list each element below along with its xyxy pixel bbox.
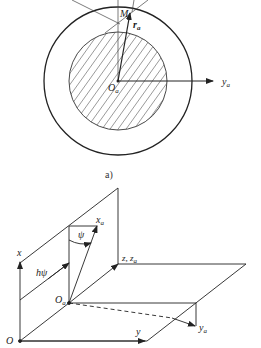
label-y-a: ya bbox=[221, 76, 230, 89]
diagram-canvas: M ra Oa ya a) bbox=[0, 0, 261, 348]
figure-b-labels: x xa ψ hψ z, za Oa O y ya bbox=[6, 214, 207, 346]
label-psi: ψ bbox=[78, 229, 85, 240]
figure-a: M ra Oa ya a) bbox=[0, 0, 230, 181]
h-psi-arrow bbox=[48, 263, 69, 279]
label-origin-a-b: Oa bbox=[55, 294, 66, 307]
oa-to-o-edge bbox=[20, 303, 69, 341]
label-m: M bbox=[119, 8, 129, 19]
label-x: x bbox=[16, 247, 22, 258]
label-origin-a: Oa bbox=[108, 82, 119, 95]
label-origin: O bbox=[6, 335, 13, 346]
figure-b bbox=[19, 188, 247, 343]
label-y: y bbox=[135, 326, 141, 337]
origin-point-b bbox=[19, 340, 22, 343]
origin-a-point bbox=[68, 302, 71, 305]
label-y-a-b: ya bbox=[198, 322, 207, 335]
construction-line bbox=[72, 0, 120, 24]
caption-a: a) bbox=[105, 169, 113, 181]
radius-vector bbox=[118, 13, 130, 81]
label-x-a: xa bbox=[95, 214, 104, 227]
label-r: ra bbox=[133, 19, 141, 32]
psi-arc bbox=[69, 240, 91, 244]
label-z: z, za bbox=[121, 253, 138, 265]
horizontal-plane-right-edge bbox=[147, 264, 246, 341]
label-h-psi: hψ bbox=[36, 267, 48, 278]
y-a-axis-b bbox=[172, 318, 195, 326]
dashed-projection bbox=[69, 303, 172, 318]
construction-line bbox=[132, 0, 134, 12]
